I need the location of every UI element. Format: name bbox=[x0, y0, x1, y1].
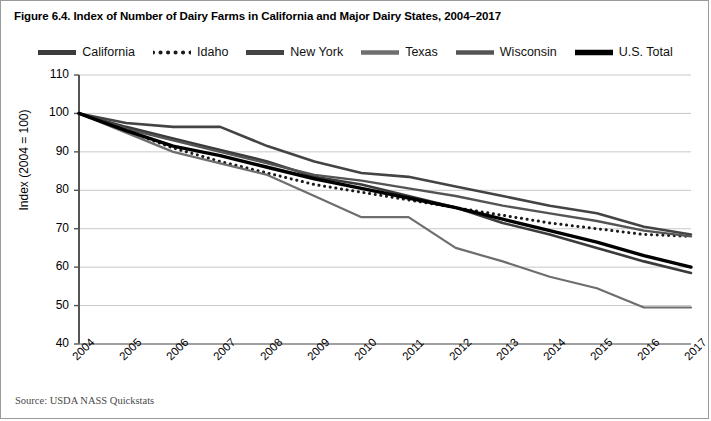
y-tick-label: 100 bbox=[39, 105, 69, 119]
series-line-texas bbox=[79, 113, 691, 307]
y-axis-label: Index (2004 = 100) bbox=[17, 65, 31, 255]
y-tick-label: 60 bbox=[39, 259, 69, 273]
y-tick-label: 50 bbox=[39, 298, 69, 312]
y-tick-label: 40 bbox=[39, 336, 69, 350]
data-series-group bbox=[79, 113, 691, 307]
figure-container: Figure 6.4. Index of Number of Dairy Far… bbox=[0, 0, 709, 419]
y-tick-label: 90 bbox=[39, 144, 69, 158]
source-note: Source: USDA NASS Quickstats bbox=[15, 395, 154, 406]
y-tick-label: 110 bbox=[39, 67, 69, 81]
y-tick-label: 80 bbox=[39, 182, 69, 196]
y-tick-label: 70 bbox=[39, 221, 69, 235]
plot-area: Index (2004 = 100) 110100908070605040 20… bbox=[1, 1, 709, 419]
axes-spines bbox=[74, 75, 691, 344]
